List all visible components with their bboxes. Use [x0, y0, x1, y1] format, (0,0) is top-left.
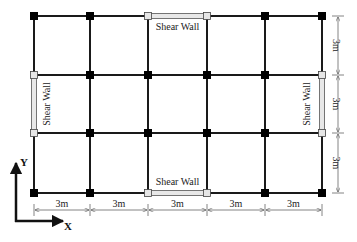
y-axis-label: Y [20, 156, 28, 168]
shear-wall-top-label: Shear Wall [156, 21, 200, 32]
beams-vertical [34, 16, 322, 193]
column-nodes [30, 12, 326, 197]
shear-wall-left [32, 75, 37, 133]
x-axis-label: X [64, 220, 72, 232]
shear-wall-bottom [148, 191, 207, 196]
dim-h-3: 3m [171, 198, 184, 209]
beams-horizontal [34, 16, 322, 193]
dim-v-2: 3m [331, 98, 342, 111]
shear-wall-nodes [31, 13, 326, 197]
dim-h-4: 3m [230, 198, 243, 209]
shear-wall-left-label: Shear Wall [41, 82, 52, 126]
shear-wall-bottom-label: Shear Wall [156, 176, 200, 187]
shear-wall-right-label: Shear Wall [301, 82, 312, 126]
dim-h-2: 3m [113, 198, 126, 209]
dim-h-5: 3m [287, 198, 300, 209]
dim-h-1: 3m [56, 198, 69, 209]
shear-wall-right [320, 75, 325, 133]
dim-v-3: 3m [331, 157, 342, 170]
shear-wall-top [148, 14, 207, 19]
structural-plan-diagram: Shear Wall Shear Wall Shear Wall Shear W… [0, 0, 357, 242]
dim-v-1: 3m [331, 39, 342, 52]
